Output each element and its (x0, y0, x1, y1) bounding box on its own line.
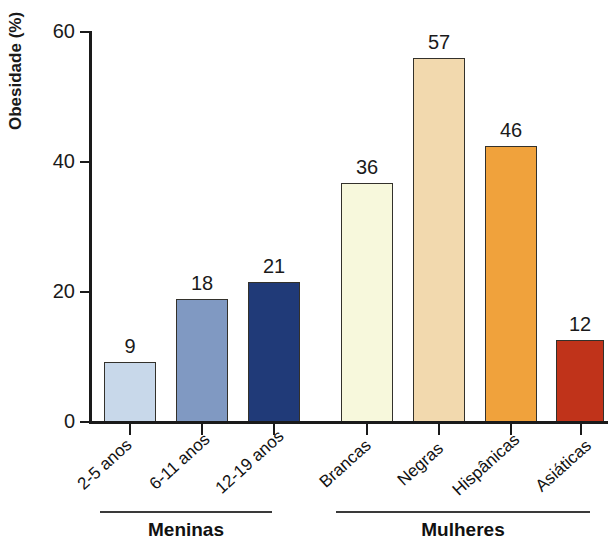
y-tick-20 (80, 291, 90, 293)
bar-value-6-11-anos: 18 (176, 273, 228, 293)
x-tick-2-5-anos (129, 424, 131, 435)
group-label-meninas: Meninas (100, 519, 272, 541)
x-label-asiaticas: Asiáticas (532, 437, 594, 495)
group-rule-meninas (100, 511, 272, 513)
y-tick-label-40-wrap: 40 (30, 151, 75, 171)
y-tick-60 (80, 31, 90, 33)
x-label-12-19-anos: 12-19 anos (212, 427, 287, 497)
bar-2-5-anos[interactable] (104, 362, 156, 422)
x-label-2-5-anos: 2-5 anos (74, 436, 135, 493)
x-label-6-11-anos: 6-11 anos (146, 430, 213, 492)
y-tick-label-20: 20 (35, 281, 75, 301)
y-axis-line (89, 31, 92, 423)
bar-6-11-anos[interactable] (176, 299, 228, 422)
x-label-hispanicas: Hispânicas (449, 431, 522, 499)
y-tick-label-0: 0 (35, 411, 75, 431)
bar-asiaticas[interactable] (556, 340, 604, 422)
bar-negras[interactable] (413, 58, 465, 422)
bar-value-hispanicas: 46 (485, 120, 537, 140)
bar-value-brancas: 36 (341, 157, 393, 177)
bar-value-negras: 57 (413, 32, 465, 52)
bar-value-asiaticas: 12 (554, 314, 606, 334)
x-tick-asiaticas (580, 424, 582, 435)
bar-brancas[interactable] (341, 183, 393, 422)
group-rule-mulheres (336, 511, 590, 513)
bar-hispanicas[interactable] (485, 146, 537, 422)
bar-value-2-5-anos: 9 (104, 336, 156, 356)
x-tick-negras (438, 424, 440, 435)
x-label-brancas: Brancas (316, 436, 374, 490)
y-tick-label-60-wrap: 60 (30, 21, 75, 41)
y-tick-label-20-wrap: 20 (30, 281, 75, 301)
group-label-mulheres: Mulheres (336, 519, 590, 541)
y-axis-title: Obesidade (%) (6, 0, 26, 130)
bar-chart: Obesidade (%) 60 40 20 0 9 18 21 36 57 4… (0, 0, 613, 554)
y-tick-label-60: 60 (35, 21, 75, 41)
bar-12-19-anos[interactable] (248, 282, 300, 422)
x-axis-line (89, 421, 608, 424)
bar-value-12-19-anos: 21 (248, 256, 300, 276)
y-tick-label-0-wrap: 0 (30, 411, 75, 431)
y-tick-40 (80, 161, 90, 163)
x-tick-brancas (366, 424, 368, 435)
y-tick-label-40: 40 (35, 151, 75, 171)
x-label-negras: Negras (394, 440, 446, 489)
